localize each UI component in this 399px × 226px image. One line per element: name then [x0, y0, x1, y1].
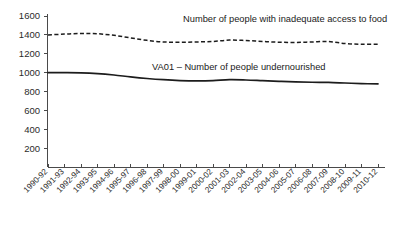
y-tick-label: 800 — [24, 86, 40, 97]
y-tick-label: 1600 — [19, 10, 40, 21]
y-tick-label: 400 — [24, 124, 40, 135]
y-tick-label: 600 — [24, 105, 40, 116]
y-tick-label: 1200 — [19, 48, 40, 59]
y-tick-label: 1400 — [19, 29, 40, 40]
annotation-inadequate-access: Number of people with inadequate access … — [183, 14, 387, 24]
line-chart: 1600140012001000800600400200 1990-921991… — [0, 0, 399, 226]
x-axis-ticks — [48, 164, 378, 168]
y-tick-label: 1000 — [19, 67, 40, 78]
y-tick-label: 200 — [24, 143, 40, 154]
annotation-undernourished: VA01 – Number of people undernourished — [152, 62, 326, 72]
chart-container: 1600140012001000800600400200 1990-921991… — [0, 0, 399, 226]
